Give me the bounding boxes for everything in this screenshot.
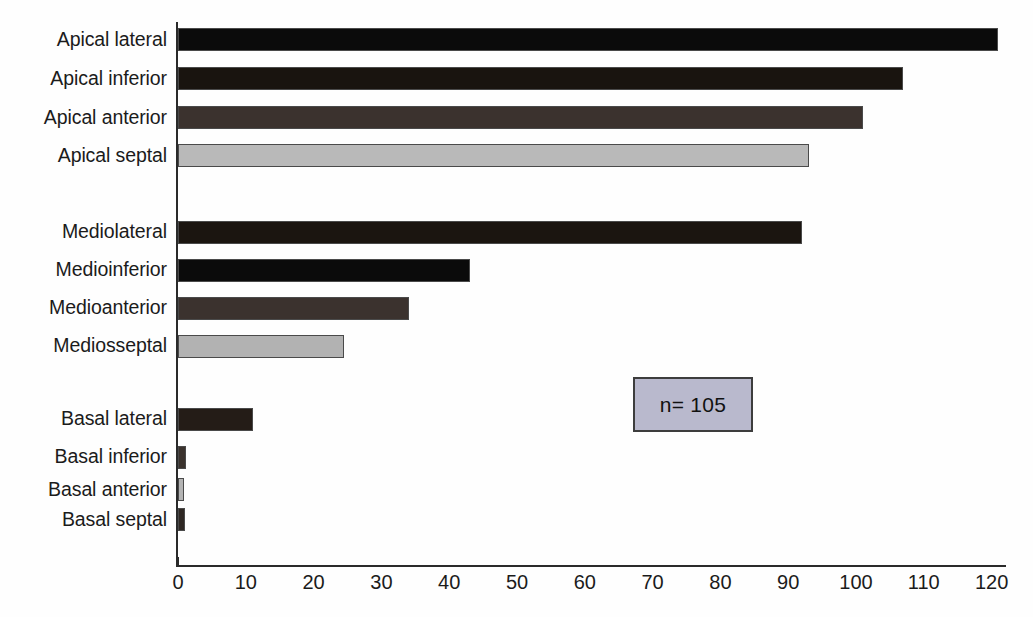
plot-area: Apical lateral Apical inferior Apical an…: [0, 0, 1033, 617]
x-tick-label-10: 10: [235, 572, 257, 592]
bar-medioanterior: [178, 297, 409, 320]
category-label-apical-inferior: Apical inferior: [50, 69, 167, 89]
x-tick-label-90: 90: [777, 572, 799, 592]
category-label-mediosseptal: Mediosseptal: [53, 336, 167, 356]
category-label-medioanterior: Medioanterior: [49, 298, 167, 318]
bar-basal-anterior: [178, 478, 184, 501]
bar-apical-inferior: [178, 67, 903, 90]
x-tick-label-100: 100: [839, 572, 872, 592]
bar-apical-septal: [178, 144, 809, 167]
x-tick-label-30: 30: [370, 572, 392, 592]
x-tick-label-0: 0: [172, 572, 183, 592]
category-label-basal-anterior: Basal anterior: [48, 480, 167, 500]
category-label-apical-lateral: Apical lateral: [57, 30, 167, 50]
x-tick-label-80: 80: [709, 572, 731, 592]
category-label-medioinferior: Medioinferior: [56, 260, 167, 280]
x-tick-label-70: 70: [641, 572, 663, 592]
x-tick-label-120: 120: [975, 572, 1008, 592]
category-label-basal-septal: Basal septal: [62, 510, 167, 530]
bar-basal-septal: [178, 508, 185, 531]
x-tick-label-110: 110: [908, 572, 940, 592]
bar-chart: Apical lateral Apical inferior Apical an…: [0, 0, 1033, 617]
x-tick-mark-0: [177, 557, 179, 567]
x-tick-label-60: 60: [574, 572, 596, 592]
x-tick-label-50: 50: [506, 572, 528, 592]
category-label-mediolateral: Mediolateral: [62, 222, 167, 242]
bar-basal-lateral: [178, 408, 253, 431]
bar-apical-lateral: [178, 28, 998, 51]
category-label-apical-septal: Apical septal: [58, 146, 167, 166]
value-axis-line: [176, 565, 1006, 567]
sample-size-annotation: n= 105: [633, 377, 753, 432]
category-label-basal-inferior: Basal inferior: [55, 447, 167, 467]
sample-size-label: n= 105: [660, 393, 727, 417]
bar-mediosseptal: [178, 335, 344, 358]
bar-basal-inferior: [178, 446, 186, 469]
bar-medioinferior: [178, 259, 470, 282]
category-label-apical-anterior: Apical anterior: [44, 108, 167, 128]
bar-apical-anterior: [178, 106, 863, 129]
bar-mediolateral: [178, 221, 802, 244]
x-tick-label-20: 20: [302, 572, 324, 592]
category-label-basal-lateral: Basal lateral: [61, 409, 167, 429]
x-tick-label-40: 40: [438, 572, 460, 592]
